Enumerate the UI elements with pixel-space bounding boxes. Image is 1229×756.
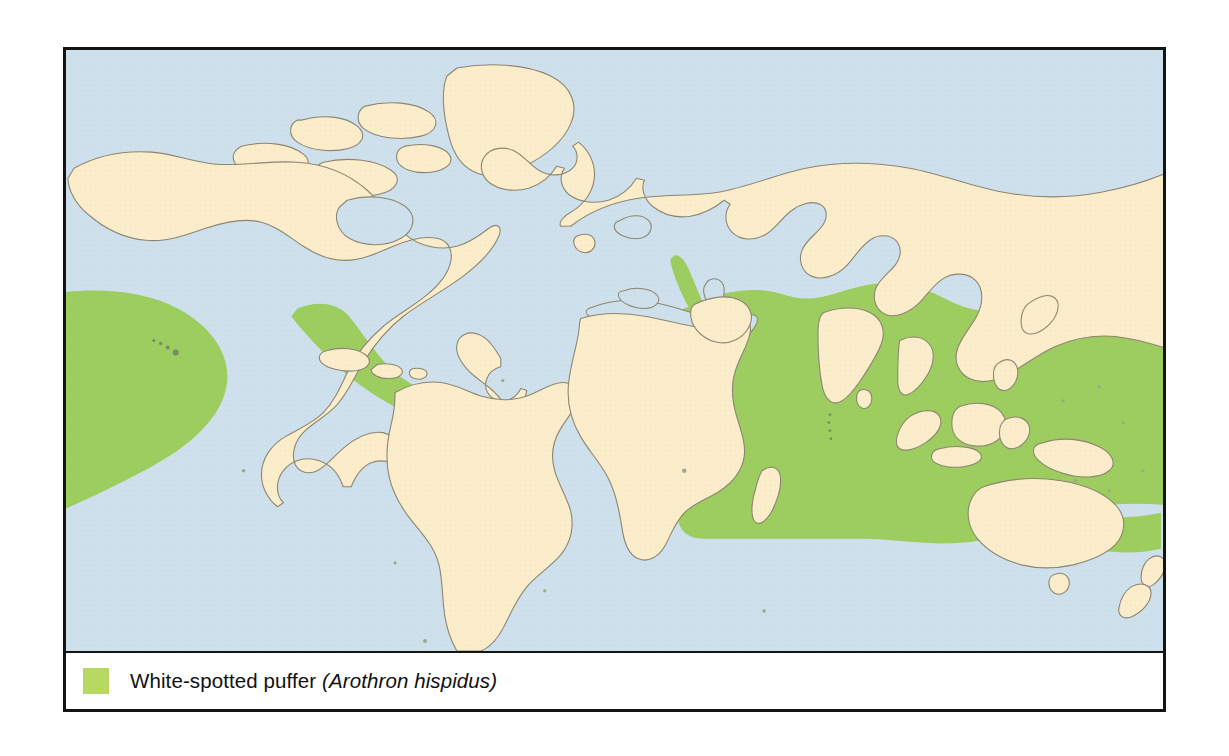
legend-common-name: White-spotted puffer — [130, 669, 316, 692]
great-britain — [574, 234, 595, 252]
arctic-island-5 — [397, 145, 451, 173]
puerto-rico — [409, 368, 427, 379]
tasmania — [1049, 573, 1069, 594]
java — [931, 447, 981, 468]
map-legend: White-spotted puffer (Arothron hispidus) — [66, 653, 1163, 709]
borneo — [952, 403, 1006, 446]
figure-frame: White-spotted puffer (Arothron hispidus) — [63, 47, 1166, 712]
legend-scientific-name: (Arothron hispidus) — [322, 669, 497, 692]
range-color-swatch — [83, 668, 109, 694]
sri-lanka — [857, 390, 872, 409]
world-distribution-map — [66, 50, 1163, 653]
map-svg — [66, 50, 1163, 651]
hudson-bay — [337, 197, 413, 245]
legend-label: White-spotted puffer (Arothron hispidus) — [130, 669, 497, 693]
